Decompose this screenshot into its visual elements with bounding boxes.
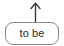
diagram-canvas: to be — [0, 0, 64, 46]
node-label: to be — [20, 28, 45, 39]
node-to-be[interactable]: to be — [5, 22, 59, 45]
